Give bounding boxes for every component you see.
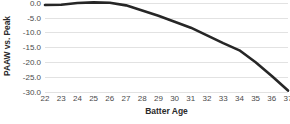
y-axis-title-label: PAAW vs. Peak: [2, 16, 12, 76]
x-axis-tick-label: 23: [57, 94, 66, 103]
line-series-paaw-vs-peak: [45, 2, 288, 90]
chart-container: PAAW vs. Peak 0.0-5.0-10.0-15.0-20.0-25.…: [0, 0, 290, 124]
y-axis-tick-label: -25.0: [23, 73, 41, 82]
y-axis-title: PAAW vs. Peak: [0, 0, 14, 92]
x-axis-tick-label: 37: [284, 94, 290, 103]
x-axis-tick-label: 34: [235, 94, 244, 103]
y-axis-tick-label: -15.0: [23, 43, 41, 52]
x-axis-tick-label: 29: [154, 94, 163, 103]
y-axis-tick-labels: 0.0-5.0-10.0-15.0-20.0-25.0-30.0: [13, 0, 43, 92]
x-axis-tick-label: 24: [73, 94, 82, 103]
plot-area: [45, 0, 288, 92]
x-axis-tick-label: 31: [186, 94, 195, 103]
x-axis-tick-label: 27: [122, 94, 131, 103]
x-axis-tick-label: 25: [89, 94, 98, 103]
x-axis-title: Batter Age: [45, 106, 288, 116]
y-axis-tick-label: -5.0: [27, 13, 41, 22]
x-axis-tick-label: 30: [170, 94, 179, 103]
x-axis-tick-label: 35: [251, 94, 260, 103]
y-axis-tick-label: 0.0: [30, 0, 41, 7]
series-plot: [45, 0, 288, 92]
x-axis-tick-label: 22: [41, 94, 50, 103]
x-axis-tick-labels: 22232425262728293031323334353637: [45, 92, 288, 106]
y-axis-tick-label: -30.0: [23, 88, 41, 97]
x-axis-tick-label: 36: [267, 94, 276, 103]
x-axis-tick-label: 26: [105, 94, 114, 103]
x-axis-tick-label: 32: [203, 94, 212, 103]
y-axis-tick-label: -20.0: [23, 58, 41, 67]
y-axis-tick-label: -10.0: [23, 28, 41, 37]
x-axis-tick-label: 33: [219, 94, 228, 103]
x-axis-tick-label: 28: [138, 94, 147, 103]
